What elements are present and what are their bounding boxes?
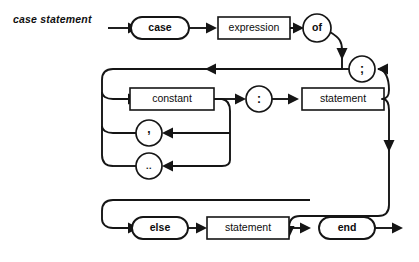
node-semicolon: ; xyxy=(349,56,375,82)
node-colon: : xyxy=(246,86,272,112)
node-case-label: case xyxy=(148,21,172,33)
node-semicolon-label: ; xyxy=(360,62,364,76)
edge-of-to-semicolon-row xyxy=(330,32,348,60)
node-statement-else: statement xyxy=(207,217,289,239)
node-statement-arm: statement xyxy=(302,88,384,110)
rail-left-alternatives xyxy=(102,80,113,166)
edge-statement-to-end xyxy=(289,223,311,234)
node-comma-label: , xyxy=(147,122,150,136)
node-else: else xyxy=(132,217,188,239)
node-expression-label: expression xyxy=(229,21,280,33)
edge-expression-to-of xyxy=(290,23,304,34)
edge-left-rail-to-comma xyxy=(102,126,136,133)
node-case: case xyxy=(131,17,189,39)
edge-semicolon-bus-left xyxy=(102,58,342,80)
node-else-label: else xyxy=(150,221,171,233)
node-constant-label: constant xyxy=(152,92,192,104)
edge-range-return xyxy=(162,161,222,172)
node-statement-arm-label: statement xyxy=(320,92,366,104)
edge-exit xyxy=(375,223,403,234)
edge-comma-return xyxy=(162,128,230,139)
node-colon-label: : xyxy=(257,92,261,106)
node-of: of xyxy=(303,14,331,42)
node-constant: constant xyxy=(130,88,214,110)
syntax-diagram-page: case statement xyxy=(0,0,419,262)
edge-case-to-expression xyxy=(189,23,217,34)
node-range-label: .. xyxy=(146,161,152,171)
edge-colon-to-statement xyxy=(272,94,299,105)
node-expression: expression xyxy=(218,17,290,39)
node-range: .. xyxy=(136,153,162,179)
node-end-label: end xyxy=(338,221,357,233)
node-comma: , xyxy=(136,120,162,146)
rail-right-from-statement xyxy=(284,90,395,238)
edge-else-to-statement xyxy=(188,223,207,234)
case-statement-railroad-diagram: ; constant xyxy=(0,0,419,262)
edge-into-semicolon xyxy=(377,64,389,91)
node-end: end xyxy=(319,217,375,239)
node-statement-else-label: statement xyxy=(225,221,271,233)
node-of-label: of xyxy=(312,21,322,33)
